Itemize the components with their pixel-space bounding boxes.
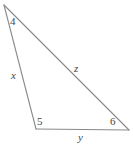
angle-label-6: 6: [110, 116, 116, 127]
angle-label-5: 5: [37, 116, 43, 127]
angle-label-4: 4: [10, 16, 16, 27]
side-label-x: x: [11, 70, 16, 81]
side-label-y: y: [78, 132, 83, 143]
triangle-figure: 4 5 6 x z y: [0, 0, 133, 146]
triangle-side-left-x: [4, 5, 36, 129]
side-label-z: z: [74, 63, 78, 74]
triangle-side-right-z: [4, 5, 129, 130]
triangle-side-bottom-y: [36, 129, 129, 130]
